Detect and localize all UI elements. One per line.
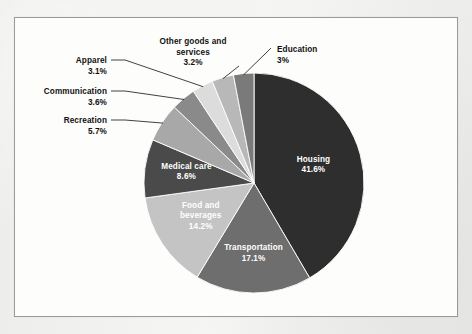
pie-chart: Housing41.6%Transportation17.1%Food andb… xyxy=(15,18,457,316)
figure-frame: Housing41.6%Transportation17.1%Food andb… xyxy=(14,17,458,317)
slice-label-education: Education3% xyxy=(277,45,317,65)
slice-label-apparel: Apparel3.1% xyxy=(76,56,108,76)
leader-line-education xyxy=(244,48,271,75)
slice-label-communication: Communication3.6% xyxy=(44,87,108,107)
pie-chart-svg: Housing41.6%Transportation17.1%Food andb… xyxy=(15,18,459,318)
page-background: Housing41.6%Transportation17.1%Food andb… xyxy=(0,0,472,334)
slice-label-other-goods-and-services: Other goods andservices3.2% xyxy=(160,37,227,67)
slice-label-housing: Housing41.6% xyxy=(297,155,330,174)
leader-line-communication xyxy=(111,91,184,100)
slice-label-recreation: Recreation5.7% xyxy=(64,116,108,136)
leader-line-recreation xyxy=(111,120,163,123)
